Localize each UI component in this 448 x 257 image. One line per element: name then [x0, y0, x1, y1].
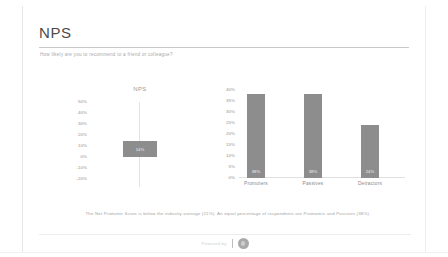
bd-bar-value-promoters: 38% — [247, 169, 265, 174]
page-title: NPS — [39, 24, 72, 41]
bd-ytick-8: 0% — [215, 175, 235, 180]
page-bottom-edge — [0, 252, 448, 253]
nps-chart-title: NPS — [115, 86, 165, 92]
bd-ytick-2: 30% — [215, 109, 235, 114]
footer-separator — [232, 239, 233, 248]
page-subtitle: How likely are you to recommend to a fri… — [40, 52, 410, 57]
footer-label: Powered by — [201, 241, 226, 246]
bd-ytick-4: 20% — [215, 131, 235, 136]
nps-bar-value: 14% — [123, 147, 157, 152]
bd-xtick-promoters: Promoters — [236, 181, 276, 186]
bd-ytick-1: 35% — [215, 98, 235, 103]
bd-ytick-5: 15% — [215, 142, 235, 147]
bd-bar-value-detractors: 24% — [361, 169, 379, 174]
nps-ytick-5: 0% — [63, 154, 87, 159]
bd-bar-promoters[interactable] — [247, 94, 265, 178]
bd-xtick-passives: Passives — [293, 181, 333, 186]
circle-logo-icon[interactable] — [238, 238, 249, 249]
bd-ytick-3: 25% — [215, 120, 235, 125]
insight-footnote: The Net Promoter Score is below the indu… — [73, 211, 383, 216]
bd-xtick-detractors: Detractors — [350, 181, 390, 186]
report-card: NPS How likely are you to recommend to a… — [22, 6, 426, 252]
nps-ytick-0: 50% — [63, 99, 87, 104]
bd-bar-value-passives: 38% — [304, 169, 322, 174]
nps-breakdown-chart: 40% 35% 30% 25% 20% 15% 10% 5% 0% 38% Pr… — [215, 84, 410, 194]
nps-ytick-1: 40% — [63, 110, 87, 115]
bd-ytick-7: 5% — [215, 164, 235, 169]
nps-ytick-3: 20% — [63, 132, 87, 137]
nps-ytick-6: -10% — [63, 165, 87, 170]
nps-ytick-4: 10% — [63, 143, 87, 148]
nps-ytick-7: -20% — [63, 176, 87, 181]
nps-score-chart: NPS 50% 40% 30% 20% 10% 0% -10% -20% 14% — [63, 84, 213, 194]
title-divider — [39, 47, 409, 48]
bd-ytick-0: 40% — [215, 87, 235, 92]
bd-ytick-6: 10% — [215, 153, 235, 158]
bd-bar-passives[interactable] — [304, 94, 322, 178]
footer-divider-line — [39, 234, 411, 235]
report-page: NPS How likely are you to recommend to a… — [0, 0, 448, 257]
nps-ytick-2: 30% — [63, 121, 87, 126]
footer: Powered by — [23, 238, 427, 249]
